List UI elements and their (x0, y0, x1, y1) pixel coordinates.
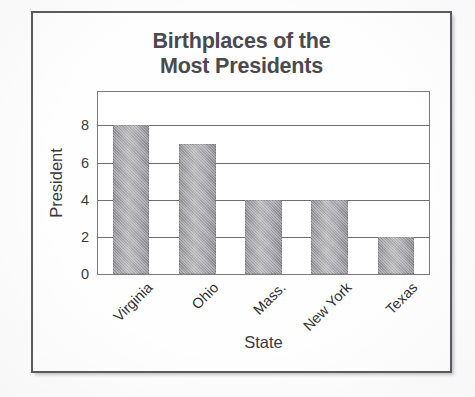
x-tick-label: Mass. (250, 280, 288, 318)
bar (245, 200, 282, 274)
x-tick-label: Virginia (111, 280, 155, 324)
chart-title: Birthplaces of the Most Presidents (33, 29, 450, 79)
bar (378, 237, 415, 274)
x-tick-label: New York (300, 280, 354, 334)
y-axis-title: President (45, 91, 67, 275)
y-tick-label: 0 (81, 267, 98, 282)
y-tick-label: 2 (81, 230, 98, 245)
scanned-page: Birthplaces of the Most Presidents Presi… (0, 0, 475, 397)
x-tick-label: Ohio (190, 280, 222, 312)
bars-layer (98, 92, 429, 274)
x-axis-title: State (97, 333, 430, 352)
bar (113, 125, 150, 274)
figure-frame: Birthplaces of the Most Presidents Presi… (31, 11, 452, 373)
y-tick-label: 6 (81, 155, 98, 170)
y-tick-label: 8 (81, 118, 98, 133)
bar (179, 144, 216, 274)
x-tick-label: Texas (383, 280, 420, 317)
plot-area: 02468 VirginiaOhioMass.New YorkTexas (97, 91, 430, 275)
bar (311, 200, 348, 274)
y-tick-label: 4 (81, 192, 98, 207)
